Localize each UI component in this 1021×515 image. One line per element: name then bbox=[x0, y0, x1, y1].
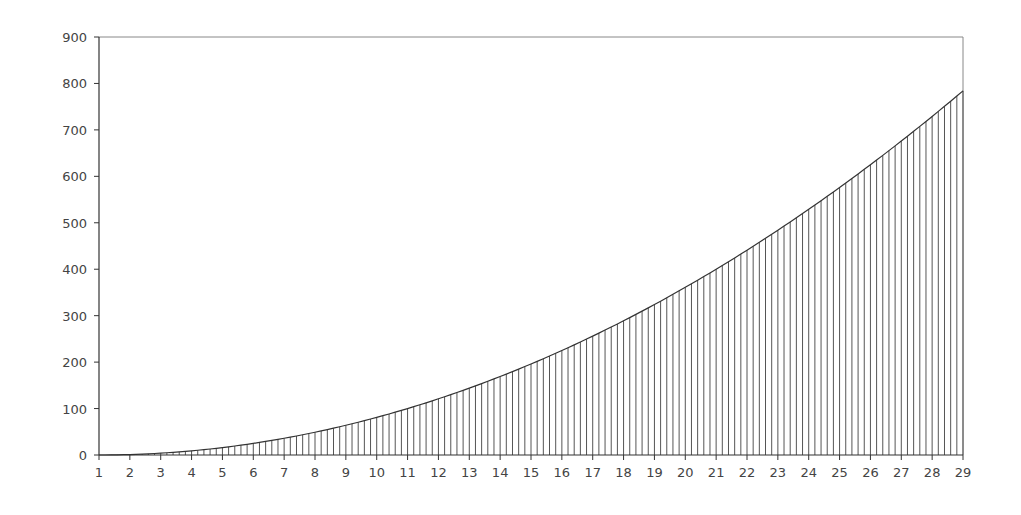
x-tick-label: 5 bbox=[218, 465, 226, 480]
x-tick-label: 21 bbox=[708, 465, 725, 480]
y-tick-label: 300 bbox=[62, 309, 87, 324]
x-tick-label: 19 bbox=[646, 465, 663, 480]
y-tick-label: 100 bbox=[62, 402, 87, 417]
x-tick-label: 6 bbox=[249, 465, 257, 480]
x-tick-label: 25 bbox=[831, 465, 848, 480]
x-tick-label: 12 bbox=[430, 465, 447, 480]
x-tick-label: 4 bbox=[187, 465, 195, 480]
y-tick-label: 200 bbox=[62, 355, 87, 370]
x-tick-label: 16 bbox=[554, 465, 571, 480]
y-tick-label: 800 bbox=[62, 76, 87, 91]
x-tick-label: 1 bbox=[95, 465, 103, 480]
x-tick-label: 17 bbox=[584, 465, 601, 480]
x-tick-label: 22 bbox=[739, 465, 756, 480]
y-axis: 0100200300400500600700800900 bbox=[62, 30, 99, 463]
x-axis: 1234567891011121314151617181920212223242… bbox=[95, 455, 971, 480]
y-tick-label: 600 bbox=[62, 169, 87, 184]
x-tick-label: 7 bbox=[280, 465, 288, 480]
y-tick-label: 900 bbox=[62, 30, 87, 45]
x-tick-label: 11 bbox=[399, 465, 416, 480]
x-tick-label: 28 bbox=[924, 465, 941, 480]
x-tick-label: 26 bbox=[862, 465, 879, 480]
x-tick-label: 24 bbox=[800, 465, 817, 480]
x-tick-label: 2 bbox=[126, 465, 134, 480]
y-tick-label: 500 bbox=[62, 216, 87, 231]
x-tick-label: 13 bbox=[461, 465, 478, 480]
x-tick-label: 10 bbox=[368, 465, 385, 480]
x-tick-label: 15 bbox=[523, 465, 540, 480]
area-chart: 0100200300400500600700800900 12345678910… bbox=[0, 0, 1021, 515]
y-tick-label: 0 bbox=[79, 448, 87, 463]
x-tick-label: 8 bbox=[311, 465, 319, 480]
x-tick-label: 14 bbox=[492, 465, 509, 480]
area-fill-hatch bbox=[99, 91, 963, 455]
x-tick-label: 29 bbox=[955, 465, 972, 480]
x-tick-label: 3 bbox=[157, 465, 165, 480]
y-tick-label: 700 bbox=[62, 123, 87, 138]
x-tick-label: 20 bbox=[677, 465, 694, 480]
x-tick-label: 18 bbox=[615, 465, 632, 480]
y-tick-label: 400 bbox=[62, 262, 87, 277]
x-tick-label: 9 bbox=[342, 465, 350, 480]
x-tick-label: 23 bbox=[770, 465, 787, 480]
x-tick-label: 27 bbox=[893, 465, 910, 480]
